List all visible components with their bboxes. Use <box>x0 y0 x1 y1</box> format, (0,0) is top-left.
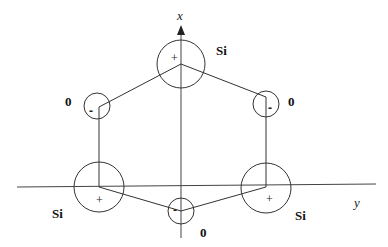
o-bottom-label: 0 <box>200 225 207 240</box>
silicon-oxygen-ring-diagram: + Si - 0 + Si - 0 + Si - 0 x y <box>0 0 388 247</box>
si-bottom-right-label: Si <box>295 208 306 223</box>
atom-o-bottom: - 0 <box>168 198 207 240</box>
o-top-right-label: 0 <box>288 94 295 109</box>
atom-o-top-left: - 0 <box>65 93 110 119</box>
x-axis-label: x <box>176 8 183 23</box>
o-top-left-circle <box>84 93 110 119</box>
y-axis-label: y <box>352 195 360 210</box>
bond-si-top-o-top-right <box>181 64 266 97</box>
o-top-right-charge: - <box>268 101 272 115</box>
atom-si-bottom-right: + Si <box>241 163 306 223</box>
o-top-left-label: 0 <box>65 94 72 109</box>
si-top-charge: + <box>171 51 178 65</box>
o-bottom-charge: - <box>173 203 177 217</box>
bond-o-top-left-si-top <box>99 64 181 107</box>
y-axis-line <box>17 184 376 187</box>
atom-si-top: + Si <box>157 40 227 88</box>
x-axis-arrow-icon <box>177 25 185 35</box>
si-top-label: Si <box>216 43 227 58</box>
si-bottom-left-charge: + <box>96 193 103 207</box>
o-top-left-charge: - <box>89 104 93 118</box>
si-bottom-right-charge: + <box>266 192 273 206</box>
si-bottom-left-label: Si <box>52 206 63 221</box>
